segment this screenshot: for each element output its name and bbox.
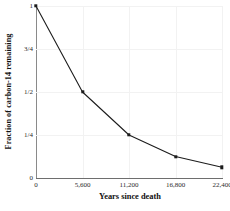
x-tick-label: 0 <box>34 181 38 189</box>
x-tick-label: 11,200 <box>120 181 139 189</box>
data-point-marker <box>220 166 223 169</box>
data-point-marker <box>81 90 84 93</box>
y-tick-label: 3/4 <box>24 45 36 53</box>
plot-area: 01/41/23/41 05,60011,20016,80022,400 <box>36 6 222 178</box>
x-tick-label: 22,400 <box>212 181 230 189</box>
data-point-marker <box>34 4 37 7</box>
x-tick-label: 5,600 <box>75 181 91 189</box>
data-point-marker <box>174 155 177 158</box>
y-tick-label: 1/4 <box>24 131 36 139</box>
y-tick-label: 1/2 <box>24 88 36 96</box>
y-axis-title: Fraction of carbon-14 remaining <box>0 0 18 182</box>
data-point-marker <box>127 133 130 136</box>
y-axis-title-text: Fraction of carbon-14 remaining <box>5 33 14 149</box>
carbon-14-decay-chart: Fraction of carbon-14 remaining 01/41/23… <box>0 0 230 211</box>
x-tick-label: 16,800 <box>166 181 185 189</box>
x-axis-title: Years since death <box>36 192 224 201</box>
x-axis-line <box>36 178 223 179</box>
gridline-vertical <box>222 6 223 178</box>
decay-curve-line <box>36 6 222 178</box>
